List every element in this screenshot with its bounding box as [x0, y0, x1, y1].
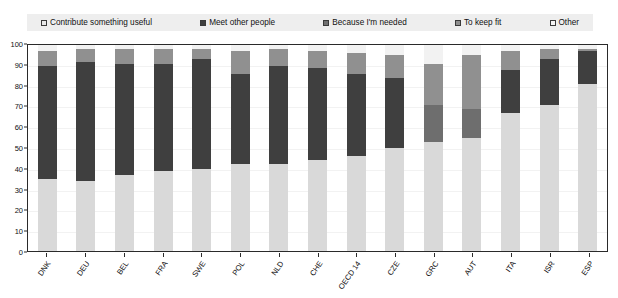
x-axis-tick-mark [163, 253, 164, 257]
bar-segment [269, 66, 288, 165]
x-axis-tick-mark [434, 253, 435, 257]
y-axis-tick-label: 20 [1, 207, 23, 215]
legend-item[interactable]: To keep fit [455, 18, 501, 27]
bar-segment [462, 45, 481, 55]
bar-segment [540, 105, 559, 251]
bar-segment [462, 55, 481, 109]
x-axis-tick-mark [589, 253, 590, 257]
bar-segment [347, 45, 366, 53]
y-axis-tick-label: 30 [1, 186, 23, 194]
stacked-bar[interactable] [501, 45, 520, 251]
bar-segment [501, 70, 520, 113]
y-axis-tick-label: 0 [1, 249, 23, 257]
stacked-bar[interactable] [347, 45, 366, 251]
x-axis-tick-label: CZE [386, 260, 401, 277]
bar-segment [308, 51, 327, 67]
y-axis-tick-label: 70 [1, 103, 23, 111]
x-axis: DNKDEUBELFRASWEPOLNLDCHEOECD 14CZEGRCAUT… [27, 253, 608, 298]
legend-item-label: Because I'm needed [332, 18, 406, 27]
stacked-bar[interactable] [424, 45, 443, 251]
bar-segment [38, 66, 57, 179]
stacked-bar[interactable] [192, 45, 211, 251]
bar-segment [231, 164, 250, 251]
bar-segment [308, 68, 327, 161]
legend-item-label: Meet other people [209, 18, 275, 27]
x-axis-tick-label: SWE [191, 260, 207, 279]
bar-segment [462, 109, 481, 138]
square-swatch-icon [41, 20, 47, 26]
bar-segment [269, 49, 288, 65]
y-axis-tick-label: 90 [1, 61, 23, 69]
legend-item[interactable]: Contribute something useful [41, 18, 152, 27]
y-axis-tick-label: 10 [1, 228, 23, 236]
x-axis-tick-mark [124, 253, 125, 257]
bar-segment [192, 49, 211, 59]
bar-segment [115, 175, 134, 251]
x-axis-tick-mark [85, 253, 86, 257]
bar-segment [154, 171, 173, 251]
bar-segment [578, 51, 597, 84]
bar-segment [231, 51, 250, 74]
bar-segment [154, 49, 173, 63]
x-axis-tick-mark [356, 253, 357, 257]
x-axis-tick-mark [472, 253, 473, 257]
stacked-bar[interactable] [154, 45, 173, 251]
y-axis-tick-label: 50 [1, 145, 23, 153]
y-axis-tick-label: 80 [1, 82, 23, 90]
bar-segment [115, 49, 134, 63]
stacked-bar[interactable] [385, 45, 404, 251]
x-axis-tick-label: CHE [308, 260, 324, 278]
bar-segment [308, 160, 327, 251]
bar-segment [424, 64, 443, 105]
bar-segment [76, 181, 95, 251]
chart-legend: Contribute something usefulMeet other pe… [27, 14, 593, 31]
bar-segment [192, 59, 211, 168]
stacked-bar[interactable] [38, 45, 57, 251]
bar-segment [192, 169, 211, 251]
x-axis-tick-label: OECD 14 [338, 260, 363, 291]
bar-segment [385, 148, 404, 251]
bar-segment [38, 179, 57, 251]
bar-segment [578, 84, 597, 251]
bar-segment [385, 55, 404, 78]
bar-segment [385, 78, 404, 148]
x-axis-tick-mark [279, 253, 280, 257]
stacked-bar[interactable] [578, 45, 597, 251]
x-axis-tick-label: DNK [37, 260, 53, 278]
stacked-bar[interactable] [269, 45, 288, 251]
stacked-bar[interactable] [540, 45, 559, 251]
bar-segment [76, 62, 95, 181]
bar-segment [424, 45, 443, 64]
legend-item[interactable]: Meet other people [200, 18, 275, 27]
bar-segment [385, 45, 404, 55]
x-axis-tick-mark [318, 253, 319, 257]
stacked-bar[interactable] [308, 45, 327, 251]
stacked-bar[interactable] [462, 45, 481, 251]
x-axis-tick-mark [511, 253, 512, 257]
legend-item-label: To keep fit [464, 18, 501, 27]
bar-segment [424, 142, 443, 251]
legend-item-label: Contribute something useful [50, 18, 152, 27]
bar-segment [347, 53, 366, 74]
bar-segment [462, 138, 481, 251]
bar-segment [76, 49, 95, 61]
bar-segment [347, 74, 366, 156]
legend-item[interactable]: Because I'm needed [323, 18, 406, 27]
bar-segment [501, 113, 520, 251]
legend-item[interactable]: Other [550, 18, 579, 27]
bar-segment [231, 74, 250, 165]
x-axis-tick-label: DEU [76, 260, 92, 278]
bar-segment [501, 51, 520, 70]
x-axis-tick-mark [395, 253, 396, 257]
y-axis-tick-label: 100 [1, 41, 23, 49]
bar-segment [347, 156, 366, 251]
bar-segment [269, 164, 288, 251]
x-axis-tick-label: NLD [270, 260, 285, 277]
y-axis-tick-label: 40 [1, 165, 23, 173]
stacked-bar[interactable] [231, 45, 250, 251]
x-axis-tick-mark [201, 253, 202, 257]
stacked-bar[interactable] [115, 45, 134, 251]
stacked-bar[interactable] [76, 45, 95, 251]
x-axis-tick-label: GRC [424, 260, 440, 278]
bar-segment [38, 51, 57, 65]
